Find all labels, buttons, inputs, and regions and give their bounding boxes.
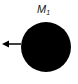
- diagram-canvas: M1: [0, 0, 78, 84]
- force-arrow-icon: [2, 41, 21, 48]
- mass-label-subscript: 1: [46, 9, 50, 16]
- mass-body: [21, 22, 71, 72]
- mass-label: M1: [37, 3, 50, 16]
